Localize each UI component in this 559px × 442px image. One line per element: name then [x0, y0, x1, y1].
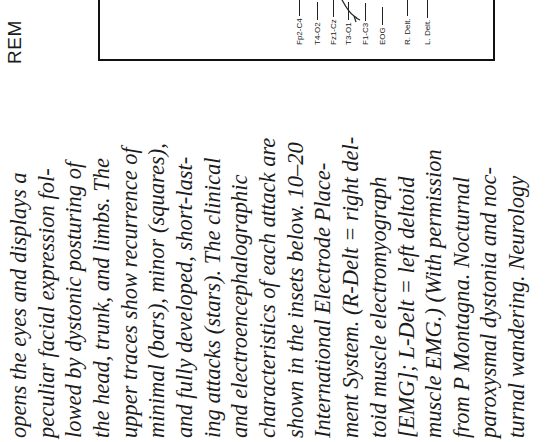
caption-line: upper traces show recurrence of [119, 147, 142, 438]
caption-line: and electroencephalographic [229, 175, 252, 438]
caption-line: characteristics of each attack are [257, 138, 280, 438]
caption-line: muscle EMG.) (With permission [423, 149, 446, 438]
figure-caption: opens the eyes and displays a peculiar f… [0, 0, 559, 442]
document-page: REM Fp2-C4 T4-O2 Fz1-Cz T3-O1 F1-C3 EOG … [0, 0, 559, 442]
caption-line: paroxysmal dystonia and noc- [478, 167, 501, 438]
caption-line: peculiar facial expression fol- [36, 168, 59, 438]
caption-line: shown in the insets below. 10–20 [285, 142, 308, 438]
caption-line: from P Montagna. Nocturnal [451, 177, 474, 438]
caption-line: the head, trunk, and limbs. The [91, 158, 114, 438]
caption-line: [EMG]; L-Delt = left deltoid [396, 177, 419, 438]
caption-line: minimal (bars), minor (squares), [146, 143, 169, 438]
caption-line: ing attacks (stars). The clinical [202, 157, 225, 438]
caption-line: and fully developed, short-last- [174, 157, 197, 438]
caption-line: opens the eyes and displays a [8, 172, 31, 438]
caption-line: International Electrode Place- [312, 163, 335, 438]
caption-line: ment System. (R-Delt = right del- [340, 137, 363, 438]
caption-line: turnal wandering. Neurology [506, 176, 529, 438]
caption-line: lowed by dystonic posturing of [63, 162, 86, 438]
caption-line: toid muscle electromyograph [368, 176, 391, 438]
